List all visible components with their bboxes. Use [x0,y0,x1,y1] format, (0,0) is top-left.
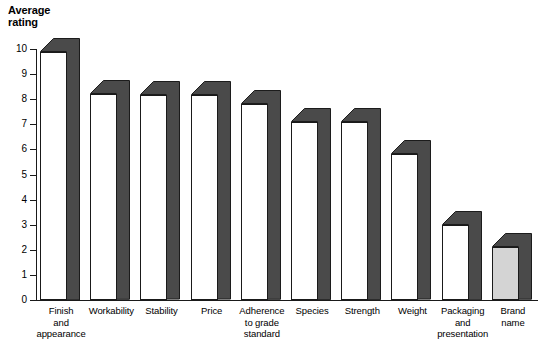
bars-layer [36,49,538,300]
y-axis-tick-label: 0 [21,294,27,305]
bar-front-face [341,122,368,300]
bar [391,141,431,300]
bar-front-face [241,104,268,300]
y-axis-tick-label: 1 [21,269,27,280]
bar [241,91,281,300]
y-axis-tick-label: 10 [16,43,27,54]
y-axis-tick-label: 2 [21,244,27,255]
bar-front-face [140,95,167,300]
y-axis-tick: 0 [30,300,36,301]
y-axis-tick-label: 5 [21,169,27,180]
bar [492,234,532,300]
chart-title: Average rating [8,4,50,28]
y-axis-tick-label: 3 [21,219,27,230]
bar [90,81,130,300]
bar-front-face [291,122,318,300]
bar-front-face [492,247,519,300]
y-axis-tick-label: 4 [21,194,27,205]
bar-front-face [90,94,117,300]
x-axis-category-labels: Finish and appearanceWorkabilityStabilit… [36,305,538,353]
y-axis-tick-label: 7 [21,118,27,129]
y-axis-tick-label: 9 [21,68,27,79]
bar [191,82,231,300]
bar-chart: Average rating 012345678910 Finish and a… [0,0,544,355]
bar [140,82,180,300]
bar-front-face [391,154,418,300]
bar-front-face [40,52,67,300]
bar-front-face [191,95,218,300]
y-axis-tick-label: 6 [21,143,27,154]
category-label: Brand name [480,305,544,328]
bar [291,109,331,300]
x-axis-line [36,300,538,301]
y-axis-tick-label: 8 [21,93,27,104]
bar-front-face [442,225,469,300]
bar [341,109,381,300]
bar [442,212,482,300]
bar [40,39,80,300]
